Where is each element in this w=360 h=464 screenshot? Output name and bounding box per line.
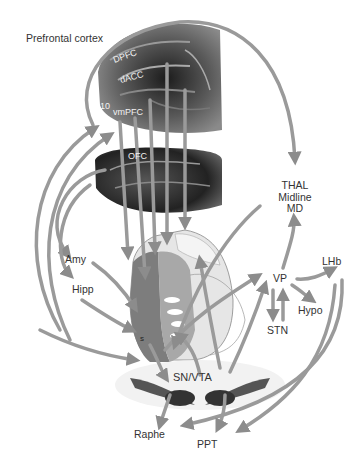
node-stn: STN <box>267 325 288 337</box>
node-hipp: Hipp <box>72 284 94 296</box>
label-vmpfc: vmPFC <box>113 108 143 118</box>
node-ppt: PPT <box>197 439 217 451</box>
circuit-diagram: Prefrontal cortex DPFC dACC 10 vmPFC OFC… <box>0 0 360 464</box>
label-ofc: OFC <box>128 152 147 162</box>
node-snvta: SN/VTA <box>173 371 212 383</box>
node-thal: THAL Midline MD <box>275 180 315 215</box>
node-vp: VP <box>273 273 287 285</box>
diagram-canvas <box>0 0 360 464</box>
node-thal-line1: THAL <box>275 180 315 192</box>
node-hypo: Hypo <box>298 305 323 317</box>
node-raphe: Raphe <box>134 429 165 441</box>
node-thal-line3: MD <box>275 203 315 215</box>
node-amy: Amy <box>65 254 86 266</box>
title-prefrontal-cortex: Prefrontal cortex <box>26 33 103 45</box>
label-area-10: 10 <box>100 102 110 112</box>
node-lhb: LHb <box>322 256 341 268</box>
label-striatum-s: s <box>140 335 144 344</box>
ofc-brain-image <box>95 148 222 213</box>
